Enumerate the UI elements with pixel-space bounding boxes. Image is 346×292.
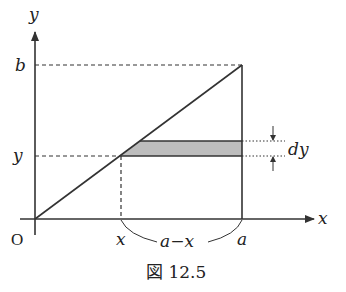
figure-caption: 図 12.5 — [146, 262, 206, 282]
label-a: a — [237, 229, 247, 249]
label-dy: dy — [288, 139, 309, 159]
origin-label: O — [11, 230, 23, 249]
y-axis-label: y — [28, 4, 39, 24]
x-axis-label: x — [318, 208, 328, 228]
label-a-minus-x: a−x — [160, 231, 194, 251]
label-b: b — [15, 55, 26, 75]
label-y: y — [12, 145, 23, 165]
brace-left — [121, 220, 157, 242]
shaded-strip — [121, 141, 242, 156]
label-x: x — [116, 229, 126, 249]
diagram-canvas: y x O b y x a a−x dy 図 12.5 — [0, 0, 346, 292]
